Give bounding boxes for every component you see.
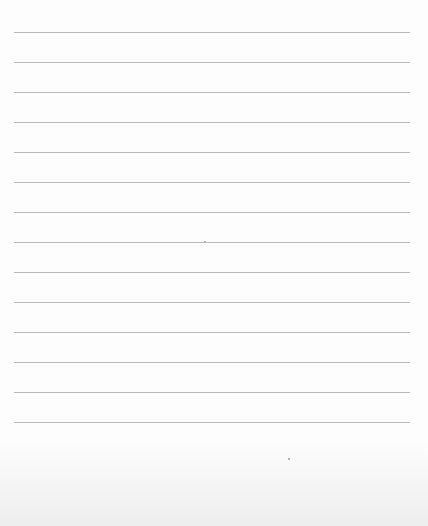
ruled-line: [14, 212, 410, 213]
lined-paper: [0, 0, 428, 526]
ruled-line: [14, 332, 410, 333]
ruled-line: [14, 62, 410, 63]
ruled-line: [14, 152, 410, 153]
ruled-line: [14, 242, 410, 243]
ruled-line: [14, 302, 410, 303]
ruled-line: [14, 362, 410, 363]
ruled-line: [14, 122, 410, 123]
ruled-line: [14, 422, 410, 423]
ruled-line: [14, 92, 410, 93]
ruled-line: [14, 392, 410, 393]
ruled-line: [14, 32, 410, 33]
ruled-line: [14, 182, 410, 183]
ruled-line: [14, 272, 410, 273]
paper-speck: [288, 458, 290, 460]
